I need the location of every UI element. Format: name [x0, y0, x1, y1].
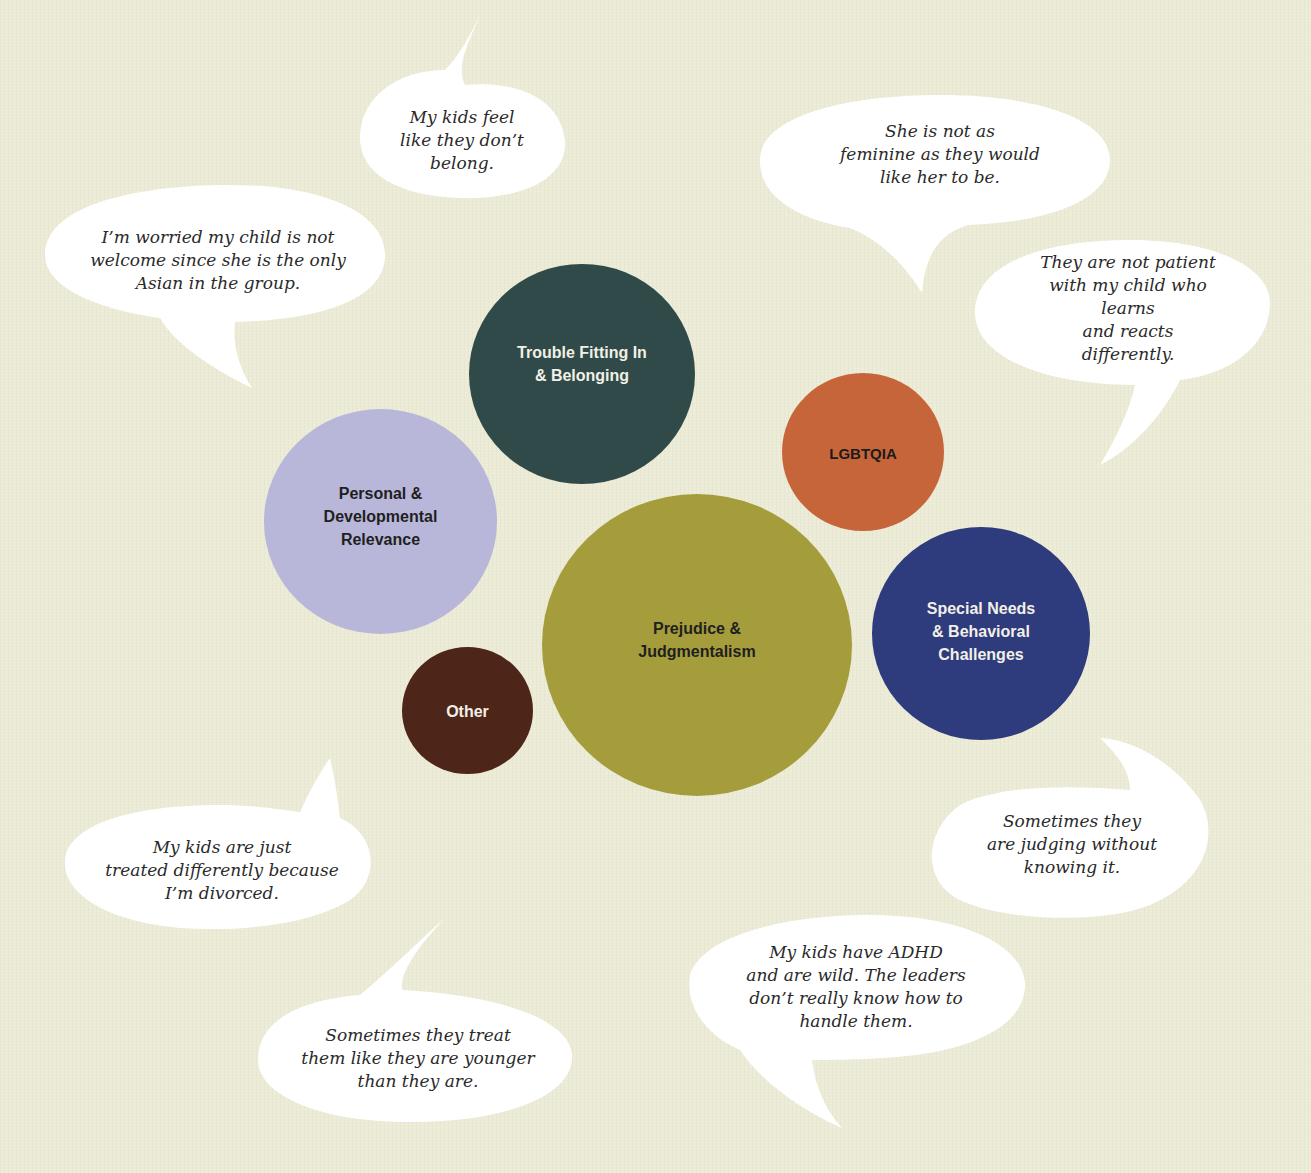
circle-lgbtqia: LGBTQIA	[782, 373, 944, 531]
circle-label-personal-developmental: Personal & Developmental Relevance	[324, 482, 438, 551]
quote-q8: Sometimes they treat them like they are …	[301, 1024, 534, 1093]
quote-q5: My kids are just treated differently bec…	[105, 836, 339, 905]
quote-q3: I’m worried my child is not welcome sinc…	[90, 226, 346, 295]
circle-label-special-needs: Special Needs & Behavioral Challenges	[927, 597, 1036, 666]
circle-label-trouble-fitting-in: Trouble Fitting In & Belonging	[517, 341, 647, 387]
circle-prejudice-judgmentalism: Prejudice & Judgmentalism	[542, 494, 852, 796]
circle-label-prejudice-judgmentalism: Prejudice & Judgmentalism	[638, 617, 755, 663]
quote-q2: She is not as feminine as they would lik…	[840, 120, 1040, 189]
quote-q6: Sometimes they are judging without knowi…	[987, 810, 1157, 879]
quote-q4: They are not patient with my child who l…	[1037, 251, 1220, 366]
circle-personal-developmental: Personal & Developmental Relevance	[264, 409, 497, 634]
circle-label-lgbtqia: LGBTQIA	[829, 442, 897, 465]
circle-other: Other	[402, 647, 533, 774]
quote-q1: My kids feel like they don’t belong.	[400, 106, 524, 175]
quote-q7: My kids have ADHD and are wild. The lead…	[746, 941, 965, 1033]
circle-label-other: Other	[446, 700, 489, 723]
circle-special-needs: Special Needs & Behavioral Challenges	[872, 527, 1090, 740]
circle-trouble-fitting-in: Trouble Fitting In & Belonging	[469, 264, 695, 484]
